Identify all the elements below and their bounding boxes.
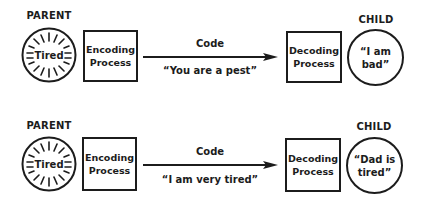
child-interpretation-circle: “I am bad” (347, 29, 404, 86)
encoding-line-1: Encoding (85, 151, 134, 164)
interpretation-line-1: “I am (360, 45, 391, 58)
sender-state: Tired (21, 136, 77, 192)
sender-state: Tired (21, 27, 77, 83)
message-text: “You are a pest” (143, 65, 277, 76)
message-text: “I am very tired” (143, 174, 277, 185)
interpretation-line-2: tired” (354, 166, 396, 179)
decoding-process-box: Decoding Process (286, 31, 342, 83)
decoding-line-2: Process (288, 165, 338, 178)
encoding-line-2: Process (86, 56, 135, 69)
arrow-icon (143, 52, 279, 62)
parent-label: PARENT (20, 120, 78, 131)
decoding-line-2: Process (289, 57, 339, 70)
interpretation-line-2: bad” (360, 58, 391, 71)
interpretation-line-1: “Dad is (354, 153, 396, 166)
encoding-process-box: Encoding Process (82, 137, 137, 191)
encoding-line-1: Encoding (86, 43, 135, 56)
parent-label: PARENT (20, 10, 78, 21)
decoding-process-box: Decoding Process (285, 138, 341, 192)
encoding-process-box: Encoding Process (83, 30, 138, 82)
child-label: CHILD (347, 14, 405, 25)
child-label: CHILD (345, 121, 403, 132)
decoding-line-1: Decoding (289, 44, 339, 57)
decoding-line-1: Decoding (288, 152, 338, 165)
channel-label: Code (143, 146, 277, 157)
encoding-line-2: Process (85, 164, 134, 177)
child-interpretation-circle: “Dad is tired” (346, 137, 403, 194)
channel-label: Code (143, 38, 277, 49)
arrow-icon (143, 160, 279, 170)
